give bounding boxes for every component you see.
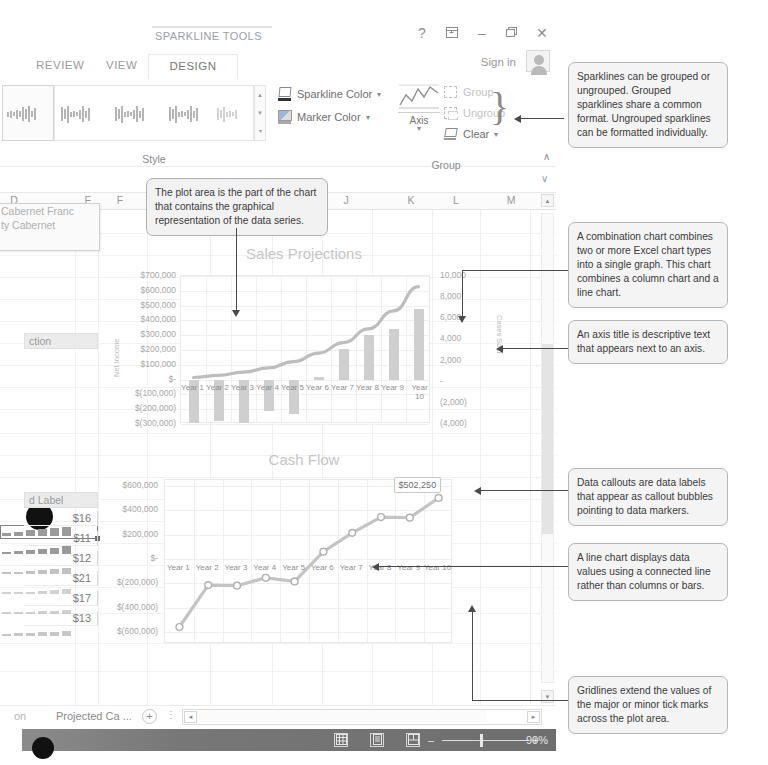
zoom-slider-knob[interactable] — [480, 734, 483, 747]
chevron-down-icon[interactable]: ▾ — [396, 124, 442, 133]
arrow-head-icon — [468, 605, 476, 612]
y-axis-tick-label: $- — [120, 374, 176, 384]
arrow-head-icon — [514, 115, 521, 123]
gallery-scroll-down-icon[interactable]: ▼ — [257, 110, 263, 116]
scroll-up-button[interactable]: ▲ — [541, 194, 554, 207]
section-header-cell[interactable]: ction — [24, 333, 98, 349]
x-axis-category-label: Year 9 — [380, 383, 405, 392]
table-row[interactable]: $11 — [24, 531, 98, 546]
hscroll-left-button[interactable]: ◄ — [184, 711, 197, 723]
line-series[interactable] — [181, 276, 431, 424]
sheet-tab-projected-cash[interactable]: Projected Ca ... — [56, 710, 132, 722]
gallery-scroll-up-icon[interactable]: ▲ — [257, 92, 263, 98]
x-axis-category-label: Year 10 — [423, 563, 452, 572]
restore-button[interactable] — [504, 26, 520, 40]
scrollbar-thumb[interactable] — [542, 344, 553, 534]
sparkline-style-thumb-1[interactable] — [61, 94, 105, 134]
vertical-scrollbar[interactable] — [541, 213, 554, 683]
sparkline-style-thumb-selected[interactable] — [2, 85, 54, 141]
data-marker[interactable] — [234, 582, 241, 589]
data-marker[interactable] — [320, 548, 327, 555]
data-marker[interactable] — [176, 624, 183, 631]
minimize-button[interactable]: – — [474, 26, 490, 40]
gallery-more-icon[interactable]: ▾ — [259, 128, 262, 134]
sparkline-style-thumb-2[interactable] — [115, 94, 159, 134]
expand-formula-bar-icon[interactable]: ∨ — [541, 173, 548, 184]
ribbon-color-commands: Sparkline Color ▾ Marker Color ▾ — [278, 87, 388, 133]
table-row[interactable]: $17 — [24, 591, 98, 606]
data-marker[interactable] — [406, 514, 413, 521]
x-axis-category-label: Year 6 — [308, 563, 337, 572]
page-layout-view-icon[interactable] — [370, 733, 384, 747]
zoom-out-button[interactable]: – — [428, 734, 434, 746]
data-marker[interactable] — [435, 495, 442, 502]
zoom-slider-track[interactable] — [442, 740, 528, 741]
sparkline-style-gallery[interactable] — [54, 85, 254, 141]
name-popup-item-1[interactable]: ty Cabernet — [0, 218, 99, 232]
sheet-tab-truncated[interactable]: on — [14, 710, 26, 722]
column-header-m[interactable]: M — [503, 194, 519, 206]
hscrollbar-thumb[interactable] — [197, 711, 487, 723]
marker-color-label: Marker Color — [297, 111, 361, 123]
data-marker[interactable] — [378, 514, 385, 521]
column-header-j[interactable]: J — [338, 194, 354, 206]
scroll-down-button[interactable]: ▼ — [541, 690, 554, 703]
y-axis-tick-label: $(100,000) — [120, 388, 176, 398]
marker-color-button[interactable]: Marker Color ▾ — [278, 110, 388, 124]
sparkline-cell[interactable] — [2, 627, 96, 636]
name-box-popup[interactable]: Cabernet Franc ty Cabernet — [0, 203, 100, 251]
sparkline-style-thumb-3[interactable] — [169, 94, 213, 134]
chart-cash-flow[interactable]: Cash Flow $502,250 $600,000$400,000$200,… — [104, 451, 504, 671]
data-marker[interactable] — [349, 529, 356, 536]
secondary-y-axis-tick-label: 8,000 — [440, 291, 461, 301]
sparkline-color-button[interactable]: Sparkline Color ▾ — [278, 87, 388, 101]
data-callout-label[interactable]: $502,250 — [394, 477, 442, 493]
gallery-scrollbar[interactable]: ▲ ▼ ▾ — [254, 85, 266, 141]
clear-button[interactable]: Clear ▾ — [444, 127, 505, 141]
y-axis-tick-label: $400,000 — [120, 314, 176, 324]
collapse-ribbon-button[interactable]: ∧ — [543, 151, 550, 162]
chevron-down-icon[interactable]: ▾ — [366, 113, 370, 122]
chevron-down-icon[interactable]: ▾ — [494, 130, 498, 139]
sheet-tab-menu-icon[interactable]: ⋮ — [166, 709, 176, 720]
y-axis-tick-label: $(300,000) — [120, 418, 176, 428]
y-axis-tick-label: $(200,000) — [120, 403, 176, 413]
ribbon-display-options-icon[interactable] — [444, 26, 460, 40]
column-header-f[interactable]: F — [112, 194, 128, 206]
horizontal-scrollbar[interactable]: ◄ ► — [182, 709, 542, 725]
zoom-level-label[interactable]: 90% — [526, 734, 548, 746]
tab-review[interactable]: REVIEW — [26, 54, 94, 76]
data-marker[interactable] — [205, 582, 212, 589]
y-axis-tick-label: $(600,000) — [104, 626, 158, 636]
column-header-l[interactable]: L — [448, 194, 464, 206]
data-marker[interactable] — [262, 574, 269, 581]
add-sheet-button[interactable]: + — [142, 709, 157, 724]
tab-design[interactable]: DESIGN — [148, 54, 238, 79]
group-button-label: Group — [463, 86, 494, 98]
ribbon-tabbar: REVIEW VIEW DESIGN — [0, 54, 556, 79]
column-header-k[interactable]: K — [403, 194, 419, 206]
axis-button[interactable]: Axis ▾ — [396, 83, 442, 133]
plot-area[interactable] — [164, 479, 452, 643]
name-popup-item-0[interactable]: Cabernet Franc — [0, 204, 99, 218]
leader-line — [502, 348, 568, 349]
help-button[interactable]: ? — [414, 26, 430, 40]
table-row[interactable]: $13 — [24, 611, 98, 626]
page-break-view-icon[interactable] — [406, 733, 420, 747]
plot-area[interactable] — [180, 275, 430, 423]
chevron-down-icon[interactable]: ▾ — [377, 90, 381, 99]
y-axis-tick-label: $100,000 — [120, 359, 176, 369]
tab-view[interactable]: VIEW — [96, 54, 147, 76]
data-marker[interactable] — [291, 578, 298, 585]
leader-line — [480, 490, 568, 491]
chart-sales-projections[interactable]: Sales Projections Net Income Cases Sold … — [104, 245, 504, 445]
data-label-header-cell[interactable]: d Label — [24, 492, 98, 508]
hscroll-right-button[interactable]: ► — [527, 711, 540, 723]
table-row[interactable]: $12 — [24, 551, 98, 566]
sparkline-color-label: Sparkline Color — [297, 88, 372, 100]
table-row[interactable]: $21 — [24, 571, 98, 586]
close-button[interactable]: ✕ — [534, 26, 550, 40]
table-row[interactable]: $16 — [24, 511, 98, 526]
normal-view-icon[interactable] — [334, 733, 348, 747]
clear-button-label: Clear — [463, 128, 489, 140]
